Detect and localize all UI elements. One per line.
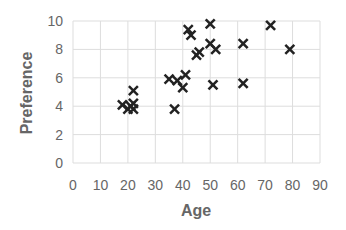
x-marker-icon — [266, 21, 275, 30]
gridlines — [73, 21, 320, 163]
y-tick-label: 6 — [55, 70, 63, 86]
x-marker-icon — [239, 39, 248, 48]
y-axis-ticks: 0246810 — [47, 13, 63, 171]
x-tick-label: 60 — [230, 177, 246, 193]
x-tick-label: 30 — [148, 177, 164, 193]
data-points — [118, 19, 294, 113]
x-marker-icon — [165, 75, 174, 84]
y-tick-label: 8 — [55, 41, 63, 57]
x-tick-label: 10 — [93, 177, 109, 193]
y-tick-label: 2 — [55, 127, 63, 143]
y-tick-label: 4 — [55, 98, 63, 114]
x-tick-label: 50 — [202, 177, 218, 193]
x-tick-label: 40 — [175, 177, 191, 193]
x-tick-label: 90 — [312, 177, 328, 193]
x-tick-label: 70 — [257, 177, 273, 193]
y-tick-label: 0 — [55, 155, 63, 171]
x-marker-icon — [129, 86, 138, 95]
x-axis-ticks: 0102030405060708090 — [69, 177, 328, 193]
x-axis-title: Age — [181, 202, 211, 219]
x-tick-label: 20 — [120, 177, 136, 193]
x-tick-label: 80 — [285, 177, 301, 193]
scatter-chart: 0102030405060708090 0246810 Age Preferen… — [0, 0, 346, 230]
x-marker-icon — [239, 79, 248, 88]
y-axis-title: Preference — [18, 52, 35, 135]
y-tick-label: 10 — [47, 13, 63, 29]
x-tick-label: 0 — [69, 177, 77, 193]
